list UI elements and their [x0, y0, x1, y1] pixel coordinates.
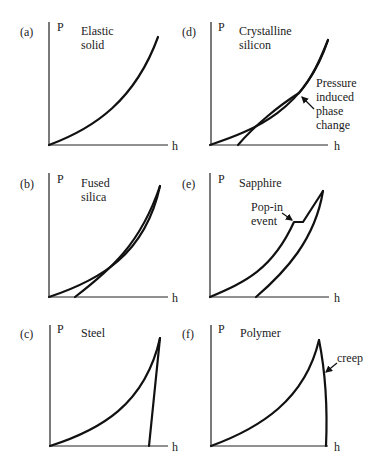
- panel-d-loading-curve: [210, 40, 328, 145]
- panel-f-arrow: [326, 363, 337, 372]
- panel-a-title: Elastic solid: [81, 24, 114, 52]
- panel-e-x-label: h: [334, 291, 340, 305]
- panel-e-axes: [210, 173, 329, 297]
- figure-canvas: [0, 0, 381, 473]
- panel-f-plot: [211, 325, 337, 446]
- panel-c-loading-curve: [50, 338, 160, 446]
- panel-d-unloading-curve: [238, 40, 328, 145]
- panel-d-annotation: Pressure induced phase change: [316, 76, 357, 132]
- panel-c-plot: [50, 325, 168, 446]
- panel-b-y-label: P: [57, 172, 64, 186]
- panel-e-title: Sapphire: [239, 176, 282, 190]
- panel-e-y-label: P: [218, 172, 225, 186]
- panel-b-x-label: h: [172, 291, 178, 305]
- panel-e-arrow: [282, 213, 292, 220]
- panel-e-annotation: Pop-in event: [251, 200, 283, 228]
- panel-a-y-label: P: [57, 20, 64, 34]
- panel-b-title: Fused silica: [81, 176, 110, 204]
- panel-a-x-label: h: [172, 139, 178, 153]
- panel-c-title: Steel: [81, 326, 105, 340]
- panel-d-title: Crystalline silicon: [239, 24, 292, 52]
- panel-f-label: (f): [182, 327, 194, 341]
- panel-e-plot: [210, 173, 329, 297]
- panel-f-axes: [211, 325, 328, 446]
- panel-f-x-label: h: [334, 440, 340, 454]
- panel-c-y-label: P: [57, 322, 64, 336]
- panel-d-x-label: h: [334, 139, 340, 153]
- panel-f-y-label: P: [218, 322, 225, 336]
- panel-e-label: (e): [182, 177, 195, 191]
- panel-c-x-label: h: [172, 440, 178, 454]
- panel-d-y-label: P: [218, 20, 225, 34]
- panel-f-unloading-curve: [319, 340, 327, 446]
- panel-b-label: (b): [20, 177, 34, 191]
- panel-d-label: (d): [182, 25, 196, 39]
- panel-a-label: (a): [20, 25, 33, 39]
- panel-c-label: (c): [20, 327, 33, 341]
- panel-f-loading-curve: [211, 340, 319, 446]
- panel-f-annotation: creep: [337, 351, 363, 365]
- panel-d-arrow: [302, 97, 314, 109]
- panel-a-curve: [49, 37, 158, 145]
- panel-f-title: Polymer: [240, 326, 281, 340]
